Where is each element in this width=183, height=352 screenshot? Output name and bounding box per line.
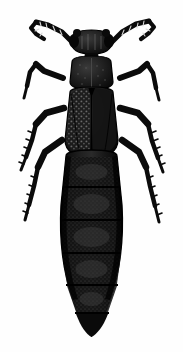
beetle-illustration-figure: Dorsal view black ink illustration of a … [0,0,183,352]
antennal-tubercle-left [73,29,81,37]
elytra-group [65,87,118,158]
beetle-drawing [0,0,183,352]
pronotum-group [70,56,113,90]
antennal-tubercle-right [102,29,110,37]
